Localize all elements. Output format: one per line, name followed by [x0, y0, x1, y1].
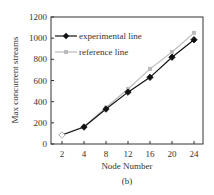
y-tick-label: 800	[34, 54, 48, 64]
data-point-marker	[170, 50, 174, 54]
x-tick-label: 12	[124, 149, 133, 159]
legend-label: experimental line	[79, 31, 142, 41]
x-tick-label: 16	[146, 149, 156, 159]
y-tick-label: 200	[34, 118, 48, 128]
y-tick-label: 1000	[29, 33, 48, 43]
x-axis-title: Node Number	[101, 161, 152, 171]
legend: experimental linereference line	[55, 31, 142, 57]
y-axis-title: Max concurrent streams	[10, 36, 20, 123]
x-tick-label: 20	[168, 149, 178, 159]
y-tick-label: 1200	[29, 12, 48, 22]
data-point-marker	[59, 132, 65, 138]
y-axis: 020040060080010001200	[29, 12, 54, 149]
data-point-marker	[192, 31, 196, 35]
y-tick-label: 600	[34, 76, 48, 86]
legend-label: reference line	[79, 47, 128, 57]
legend-marker	[63, 33, 69, 39]
line-chart: 020040060080010001200 24812162024 experi…	[0, 0, 214, 195]
x-tick-label: 4	[82, 149, 87, 159]
legend-marker	[64, 50, 68, 54]
data-point-marker	[148, 67, 152, 71]
y-tick-label: 400	[34, 97, 48, 107]
figure-caption: (b)	[122, 176, 133, 186]
x-tick-label: 2	[60, 149, 65, 159]
x-tick-label: 24	[190, 149, 200, 159]
x-tick-label: 8	[104, 149, 109, 159]
y-tick-label: 0	[43, 139, 48, 149]
